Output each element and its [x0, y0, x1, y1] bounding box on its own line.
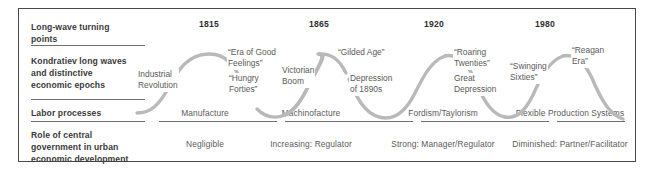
- labor-process-fordism-taylorism: Fordism/Taylorism: [408, 108, 478, 118]
- divider-labor-segment-5: [557, 121, 625, 122]
- labor-process-manufacture: Manufacture: [181, 108, 229, 118]
- labor-process-machinofacture: Machinofacture: [282, 108, 341, 118]
- kondratiev-wave-figure: Long-wave turning points Kondratiev long…: [0, 0, 657, 177]
- figure-frame: Long-wave turning points Kondratiev long…: [18, 8, 636, 162]
- epoch-gilded-age: “Gilded Age”: [337, 47, 386, 58]
- divider-labor-segment-4: [421, 121, 549, 122]
- government-role-increasing-regulator: Increasing: Regulator: [270, 139, 352, 149]
- epoch-depression-1890s: Depression of 1890s: [349, 73, 393, 96]
- government-role-diminished-partner: Diminished: Partner/Facilitator: [512, 139, 627, 149]
- divider-labor-segment-1: [31, 121, 145, 122]
- row-label-government-role: Role of central government in urban econ…: [31, 129, 157, 166]
- turning-point-1980: 1980: [535, 19, 555, 29]
- epoch-roaring-twenties: “Roaring Twenties”: [453, 47, 491, 70]
- divider-after-turning-points: [31, 45, 145, 46]
- row-label-turning-points: Long-wave turning points: [31, 21, 151, 45]
- divider-labor-segment-2: [159, 121, 277, 122]
- government-role-strong-manager-regulator: Strong: Manager/Regulator: [391, 139, 495, 149]
- turning-point-1865: 1865: [309, 19, 329, 29]
- epoch-hungry-forties: “Hungry Forties”: [228, 73, 260, 96]
- turning-point-1920: 1920: [424, 19, 444, 29]
- labor-process-flexible-production: Flexible Production Systems: [516, 108, 624, 118]
- epoch-industrial-revolution: Industrial Revolution: [137, 69, 179, 92]
- epoch-era-of-good-feelings: “Era of Good Feelings”: [227, 47, 277, 70]
- turning-point-1815: 1815: [199, 19, 219, 29]
- epoch-victorian-boom: Victorian Boom: [281, 65, 315, 88]
- epoch-great-depression: Great Depression: [453, 73, 497, 96]
- divider-after-kondratiev-waves: [31, 99, 145, 100]
- government-role-negligible: Negligible: [186, 139, 224, 149]
- row-label-labor-processes: Labor processes: [31, 107, 151, 119]
- divider-labor-segment-3: [285, 121, 413, 122]
- epoch-swinging-sixties: “Swinging Sixties”: [509, 61, 548, 84]
- epoch-reagan-era: “Reagan Era”: [571, 45, 605, 68]
